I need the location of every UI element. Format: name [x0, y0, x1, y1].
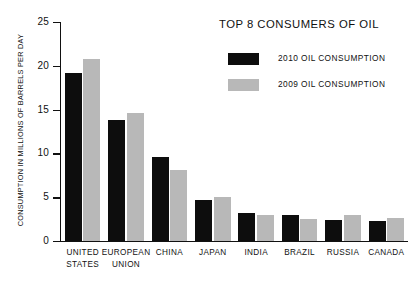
y-axis-tick-label: 15 — [37, 104, 49, 116]
y-axis-tick: 20 — [53, 66, 61, 67]
y-axis-tick: 25 — [53, 22, 61, 23]
oil-consumption-bar-chart: CONSUMPTION IN MILLIONS OF BARRELS PER D… — [0, 0, 412, 286]
y-axis-tick-label: 25 — [37, 16, 49, 28]
bar — [387, 218, 404, 241]
y-axis-tick-label: 10 — [37, 147, 49, 159]
y-axis-title: CONSUMPTION IN MILLIONS OF BARRELS PER D… — [14, 15, 28, 245]
y-axis-tick: 0 — [53, 241, 61, 242]
chart-legend: 2010 OIL CONSUMPTION2009 OIL CONSUMPTION — [228, 51, 408, 103]
bar — [344, 215, 361, 241]
chart-title: TOP 8 CONSUMERS OF OIL — [219, 18, 379, 30]
bar — [108, 120, 125, 241]
legend-swatch — [228, 53, 259, 65]
x-axis-category-label: CANADA — [359, 247, 412, 259]
bar — [257, 215, 274, 241]
bar — [195, 200, 212, 241]
bar — [214, 197, 231, 241]
y-axis-tick: 10 — [53, 153, 61, 154]
bar — [325, 220, 342, 241]
bar-group — [148, 22, 191, 241]
y-axis-tick: 15 — [53, 110, 61, 111]
bar — [152, 157, 169, 241]
legend-item: 2009 OIL CONSUMPTION — [228, 77, 408, 103]
bar — [282, 215, 299, 241]
y-axis-tick: 5 — [53, 197, 61, 198]
y-axis-tick-label: 5 — [43, 191, 49, 203]
legend-label: 2009 OIL CONSUMPTION — [278, 78, 385, 91]
y-axis-tick-label: 0 — [43, 235, 49, 247]
bar — [300, 219, 317, 241]
x-axis-category-labels: UNITED STATESEUROPEAN UNIONCHINAJAPANIND… — [61, 247, 408, 283]
legend-swatch — [228, 79, 259, 91]
bar — [83, 59, 100, 241]
bar — [170, 170, 187, 241]
bar-group — [104, 22, 147, 241]
bar — [238, 213, 255, 241]
bar-group — [61, 22, 104, 241]
legend-label: 2010 OIL CONSUMPTION — [278, 52, 385, 65]
y-axis-tick-label: 20 — [37, 60, 49, 72]
bar — [369, 221, 386, 241]
bar — [65, 73, 82, 241]
bar — [127, 113, 144, 241]
legend-item: 2010 OIL CONSUMPTION — [228, 51, 408, 77]
